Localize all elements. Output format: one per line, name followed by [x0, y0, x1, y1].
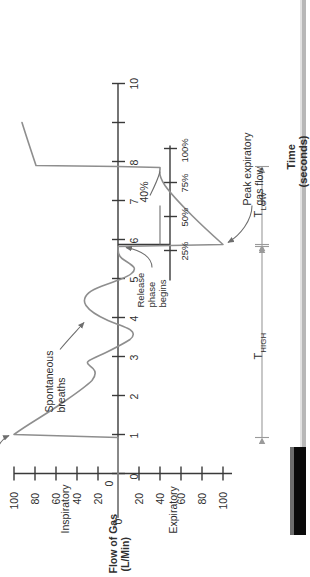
y-tick-insp-100: 100 — [9, 491, 20, 509]
t-low-label: TLOW — [248, 192, 268, 217]
t-high-label: THIGH — [248, 332, 268, 359]
annotation-spontaneous-line1: Spontaneous — [44, 350, 55, 412]
y-tick-insp-20: 20 — [93, 492, 104, 504]
x-tick-6: 6 — [129, 237, 140, 243]
t-low-sub: LOW — [259, 192, 268, 210]
peak-inspiratory-leader — [0, 435, 9, 469]
annotation-spontaneous-line2: breaths — [56, 377, 67, 412]
release-tick-25: 25% — [180, 241, 190, 260]
t-high-sub: HIGH — [259, 332, 268, 352]
x-tick-4: 4 — [129, 315, 140, 321]
release-tick-75: 75% — [180, 173, 190, 192]
x-axis-title-line1: Time — [286, 144, 297, 169]
release-tick-100: 100% — [180, 138, 190, 162]
x-axis-title-line2: (seconds) — [298, 135, 309, 187]
y-tick-insp-40: 40 — [72, 492, 83, 504]
release-tick-50: 50% — [180, 207, 190, 226]
x-tick-3: 3 — [129, 354, 140, 360]
forty-percent-label: 40% — [139, 181, 150, 202]
region-label-inspiratory: Inspiratory — [60, 484, 71, 533]
y-tick-exp-80: 80 — [197, 492, 208, 504]
y-axis-title-line1: Flow of Gas — [108, 513, 119, 573]
annotation-release-line1: Release — [136, 272, 146, 307]
spontaneous-breaths-leader — [60, 322, 84, 349]
origin-label: 0 — [104, 480, 115, 486]
annotation-release-line3: begins — [158, 279, 168, 307]
region-label-expiratory: Expiratory — [168, 486, 179, 533]
x-tick-1: 1 — [129, 432, 140, 438]
x-tick-8: 8 — [129, 159, 140, 165]
x-tick-2: 2 — [129, 393, 140, 399]
t-high-main: T — [252, 352, 264, 359]
y-tick-exp-100: 100 — [218, 491, 229, 509]
y-tick-insp-80: 80 — [30, 492, 41, 504]
y-tick-exp-40: 40 — [155, 492, 166, 504]
forty-percent-leader — [150, 171, 160, 195]
t-low-main: T — [252, 210, 264, 217]
y-tick-exp-20: 20 — [134, 492, 145, 504]
y-axis-title-line2: (L/Min) — [120, 537, 131, 571]
x-tick-0: 0 — [129, 473, 140, 479]
annotation-release-line2: phase — [147, 281, 157, 307]
x-tick-10: 10 — [129, 77, 140, 89]
